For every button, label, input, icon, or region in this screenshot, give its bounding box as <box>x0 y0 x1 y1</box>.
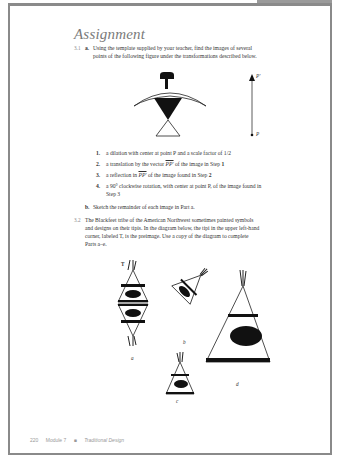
tipi-label-a: a <box>131 355 134 361</box>
tipi-c <box>166 352 194 394</box>
page-title: Assignment <box>74 26 145 43</box>
step-3-num: 3. <box>96 171 100 179</box>
page-number: 220 <box>30 437 38 443</box>
label-p: P <box>256 131 259 137</box>
module-name: Module 7 <box>46 437 67 443</box>
problem-3-2-line-2: and designs on their tipis. In the diagr… <box>85 224 259 232</box>
problem-3-2-line-4: Parts a–e. <box>85 240 107 248</box>
step-1-text: a dilation with center at point P and a … <box>106 149 231 157</box>
problem-number-3-1: 3.1 <box>74 45 80 51</box>
tipi-label-c: c <box>176 398 178 404</box>
problem-3-2-line-1: The Blackfeet tribe of the American Nort… <box>85 216 254 224</box>
tipi-label-b: b <box>183 339 186 345</box>
part-a-line-1: Using the template supplied by your teac… <box>93 44 252 52</box>
tipi-diagram <box>100 258 320 418</box>
tipi-label-t: T <box>121 261 124 267</box>
tipi-a <box>118 304 148 346</box>
tipi-d <box>206 270 270 362</box>
section-name: Traditional Design <box>84 437 124 443</box>
footer-bullet: ■ <box>74 437 77 443</box>
tipi-b <box>172 260 217 305</box>
thunderbird-figure <box>130 72 210 142</box>
tipi-label-d: d <box>236 381 239 387</box>
step-2-text: a translation by the vector PP' of the i… <box>106 160 224 168</box>
problem-3-2-line-3: corner, labeled T, is the preimage. Use … <box>85 232 249 240</box>
part-a-line-2: points of the following figure under the… <box>93 52 257 60</box>
problem-number-3-2: 3.2 <box>74 217 80 223</box>
part-b-label: b. <box>85 203 90 211</box>
page-footer: 220 Module 7 ■ Traditional Design <box>30 437 130 443</box>
step-2-num: 2. <box>96 160 100 168</box>
vector-p-p-prime <box>246 73 276 139</box>
step-4-line-2: Step 3 <box>106 190 120 198</box>
step-3-text: a reflection in PP' of the image found i… <box>106 171 212 179</box>
part-b-text: Sketch the remainder of each image in Pa… <box>93 203 195 211</box>
step-4-num: 4. <box>96 182 100 190</box>
step-1-num: 1. <box>96 149 100 157</box>
part-a-label: a. <box>85 44 89 52</box>
label-p-prime: P' <box>256 73 260 79</box>
step-4-line-1: a 90° clockwise rotation, with center at… <box>106 182 261 190</box>
